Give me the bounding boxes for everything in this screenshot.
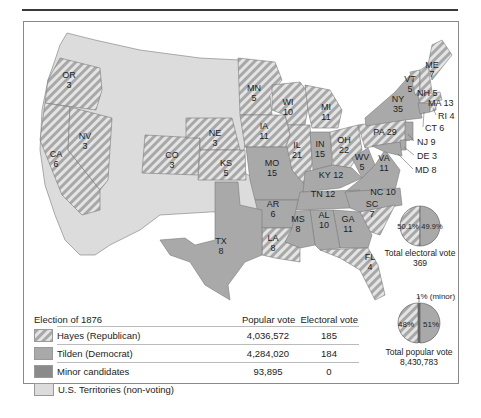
label-MN-ev: 5: [251, 93, 256, 103]
popular-vote-pie: 1% (minor) 48% 51%: [398, 292, 455, 343]
label-VA-ev: 11: [379, 163, 388, 173]
legend-electoral: 0: [299, 366, 359, 377]
label-NV: NV: [79, 131, 92, 141]
label-MO: MO: [265, 158, 280, 168]
label-GA: GA: [341, 214, 354, 224]
legend-name: Hayes (Republican): [57, 330, 237, 341]
label-NE: NE: [209, 128, 222, 138]
label-IL: IL: [293, 140, 301, 150]
label-MI: MI: [321, 102, 331, 112]
electoral-tilden-pct: 49.9%: [421, 222, 443, 231]
label-IN: IN: [316, 139, 325, 149]
popular-hayes-pct: 48%: [398, 320, 414, 329]
label-LA-ev: 8: [270, 243, 275, 253]
label-MS: MS: [291, 214, 305, 224]
legend-electoral: 185: [299, 330, 359, 341]
col-popular-vote: Popular vote: [238, 314, 300, 325]
label-OR-ev: 3: [66, 80, 71, 90]
label-RI: RI 4: [438, 111, 455, 121]
label-AL-ev: 10: [319, 220, 329, 230]
label-MA: MA 13: [428, 98, 454, 108]
label-NV-ev: 3: [82, 141, 87, 151]
label-TX: TX: [215, 236, 227, 246]
hayes-swatch: [34, 329, 53, 342]
label-KS-ev: 5: [223, 168, 228, 178]
label-DE: DE 3: [417, 151, 437, 161]
label-NE-ev: 3: [212, 138, 217, 148]
label-IA: IA: [260, 121, 269, 131]
popular-minor-note: 1% (minor): [416, 292, 455, 301]
tilden-swatch: [34, 347, 53, 360]
label-IL-ev: 21: [292, 150, 302, 160]
legend-title: Election of 1876: [34, 314, 238, 325]
label-SC-ev: 7: [369, 209, 374, 219]
label-WI: WI: [283, 97, 294, 107]
label-OH-ev: 22: [339, 145, 349, 155]
legend-popular: 4,036,572: [237, 330, 299, 341]
label-MO-ev: 15: [267, 168, 277, 178]
legend-row-territories: U.S. Territories (non-voting): [34, 380, 359, 398]
label-CA-ev: 6: [53, 159, 58, 169]
label-IN-ev: 15: [315, 149, 325, 159]
label-PA: PA 29: [373, 127, 396, 137]
legend-name: U.S. Territories (non-voting): [58, 384, 358, 395]
label-MD: MD 8: [415, 165, 437, 175]
label-CA: CA: [50, 149, 63, 159]
label-NJ: NJ 9: [417, 137, 436, 147]
legend-popular: 93,895: [237, 366, 299, 377]
label-NY: NY: [392, 94, 405, 104]
electoral-pie-caption: Total electoral vote 369: [375, 248, 465, 268]
label-OH: OH: [337, 135, 351, 145]
label-WI-ev: 10: [283, 107, 293, 117]
label-AR-ev: 6: [270, 209, 275, 219]
label-VT-ev: 5: [407, 84, 412, 94]
label-MS-ev: 8: [295, 224, 300, 234]
label-CO-ev: 3: [169, 160, 174, 170]
label-GA-ev: 11: [343, 224, 352, 234]
label-AL: AL: [318, 210, 329, 220]
popular-caption-text: Total popular vote: [374, 347, 464, 357]
label-AR: AR: [267, 199, 280, 209]
legend-name: Tilden (Democrat): [57, 348, 237, 359]
legend-row-minor: Minor candidates 93,895 0: [34, 362, 359, 380]
label-MI-ev: 11: [321, 112, 330, 122]
label-KY: KY 12: [319, 170, 343, 180]
label-OR: OR: [62, 70, 76, 80]
label-KS: KS: [220, 158, 232, 168]
electoral-caption-text: Total electoral vote: [375, 248, 465, 258]
legend-popular: 4,284,020: [237, 348, 299, 359]
label-SC: SC: [366, 199, 379, 209]
label-NC: NC 10: [370, 187, 396, 197]
col-electoral-vote: Electoral vote: [299, 314, 359, 325]
label-WV: WV: [355, 152, 370, 162]
label-IA-ev: 11: [259, 131, 268, 141]
label-CT: CT 6: [425, 123, 444, 133]
label-WV-ev: 5: [359, 162, 364, 172]
minor-swatch: [34, 365, 53, 378]
territory-swatch: [34, 383, 54, 396]
electoral-vote-pie: 50.1% 49.9%: [397, 206, 443, 246]
popular-tilden-pct: 51%: [423, 320, 439, 329]
popular-total: 8,430,783: [374, 357, 464, 367]
label-ME-ev: 7: [429, 69, 434, 79]
electoral-total: 369: [375, 258, 465, 268]
label-FL-ev: 4: [367, 262, 372, 272]
popular-pie-caption: Total popular vote 8,430,783: [374, 347, 464, 367]
label-MN: MN: [247, 83, 261, 93]
legend-row-hayes: Hayes (Republican) 4,036,572 185: [34, 326, 359, 344]
legend-table: Election of 1876 Popular vote Electoral …: [34, 312, 359, 398]
label-CO: CO: [165, 150, 179, 160]
label-VA: VA: [378, 153, 389, 163]
label-VT: VT: [404, 74, 416, 84]
label-NY-ev: 35: [393, 104, 403, 114]
label-FL: FL: [365, 252, 376, 262]
label-LA: LA: [267, 233, 278, 243]
label-TX-ev: 8: [218, 246, 223, 256]
legend-header: Election of 1876 Popular vote Electoral …: [34, 312, 359, 326]
label-NH: NH 5: [417, 88, 438, 98]
legend-name: Minor candidates: [57, 366, 237, 377]
legend-electoral: 184: [299, 348, 359, 359]
legend-row-tilden: Tilden (Democrat) 4,284,020 184: [34, 344, 359, 362]
electoral-hayes-pct: 50.1%: [397, 222, 419, 231]
state-NJ: [405, 122, 413, 140]
